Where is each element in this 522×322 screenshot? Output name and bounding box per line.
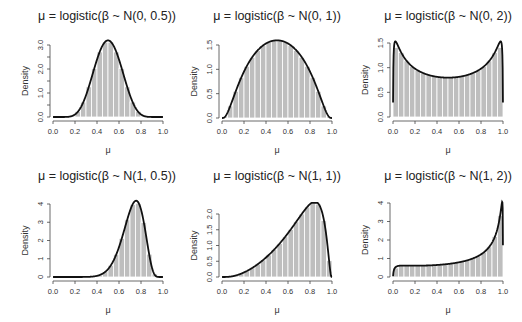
figure-panel-grid: μ = logistic(β ~ N(0, 0.5))0.00.20.40.60… [0,0,522,322]
x-axis-label: μ [274,145,279,155]
x-axis: 0.00.20.40.60.81.0μ [388,281,508,315]
y-axis: 0.00.51.01.52.0Density [189,209,219,282]
histogram-bars [393,216,503,277]
histogram-bar [305,207,311,277]
histogram-bar [255,50,261,118]
histogram-bar [443,264,449,277]
histogram-bar [426,75,432,117]
histogram-bar [399,52,405,117]
x-tick-label: 0.2 [239,287,249,296]
x-tick-label: 0.2 [410,287,420,296]
x-axis-label: μ [445,305,450,315]
histogram-bar [487,61,493,117]
histogram-bar [250,57,256,118]
x-tick-label: 1.0 [327,127,337,136]
histogram-bar [415,70,421,117]
y-axis-label: Density [360,224,370,255]
histogram-bar [410,66,416,117]
histogram-bar [437,77,443,117]
x-tick-label: 0.6 [454,127,464,136]
x-tick-label: 0.4 [92,287,102,296]
histogram-bar [459,262,465,277]
panel-title: μ = logistic(β ~ N(0, 1)) [213,9,341,23]
y-tick-label: 4 [36,202,45,206]
y-tick-label: 2.0 [205,209,214,219]
x-tick-label: 0.8 [476,287,486,296]
histogram-bar [465,260,471,277]
y-tick-label: 0.0 [205,272,214,282]
histogram-bar [415,266,421,277]
y-tick-label: 0 [36,275,45,279]
x-tick-label: 0.8 [476,127,486,136]
panel-3: μ = logistic(β ~ N(0, 2))0.00.20.40.60.8… [360,9,512,155]
histogram-bar [108,42,114,117]
histogram-bar [448,264,454,277]
y-axis: 0.01.02.03.0Density [20,40,50,122]
histogram-bar [476,256,482,277]
y-axis: 0.00.51.01.5Density [189,40,219,123]
histogram-bar [316,204,322,277]
y-tick-label: 0.5 [205,88,214,98]
x-axis: 0.00.20.40.60.81.0μ [217,281,337,315]
histogram-bar [272,249,278,277]
x-axis-label: μ [105,305,110,315]
y-axis-label: Density [20,225,30,256]
histogram-bars [59,42,158,117]
histogram-bar [283,237,289,277]
panel-2: μ = logistic(β ~ N(0, 1))0.00.20.40.60.8… [189,9,341,155]
x-tick-label: 0.4 [432,127,442,136]
histogram-bars [222,41,332,118]
y-tick-label: 1.0 [205,64,214,74]
y-axis-label: Density [360,64,370,95]
x-tick-label: 1.0 [498,287,508,296]
x-tick-label: 0.0 [388,127,398,136]
panel-title: μ = logistic(β ~ N(1, 1)) [213,169,341,183]
y-tick-label: 3 [36,220,45,224]
y-axis: 01234Density [20,202,50,279]
y-axis-label: Density [20,65,30,96]
histogram-bar [136,203,142,277]
x-tick-label: 0.2 [410,127,420,136]
histogram-bar [470,73,476,117]
x-tick-label: 1.0 [498,127,508,136]
x-tick-label: 0.2 [70,287,80,296]
x-axis: 0.00.20.40.60.81.0μ [48,121,168,155]
histogram-bars [222,203,332,277]
y-axis-label: Density [189,230,199,261]
x-axis-label: μ [445,145,450,155]
panel-title: μ = logistic(β ~ N(0, 2)) [384,9,512,23]
histogram-bar [432,265,438,277]
x-axis-label: μ [105,145,110,155]
x-tick-label: 0.6 [283,127,293,136]
y-tick-label: 1.5 [205,40,214,50]
panel-title: μ = logistic(β ~ N(1, 0.5)) [38,169,176,183]
x-tick-label: 0.6 [454,287,464,296]
y-tick-label: 4 [376,201,385,205]
x-tick-label: 0.4 [261,127,271,136]
histogram-bar [481,66,487,117]
panel-title: μ = logistic(β ~ N(1, 2)) [384,169,512,183]
panel-6: μ = logistic(β ~ N(1, 2))0.00.20.40.60.8… [360,169,512,315]
y-tick-label: 1.0 [205,240,214,250]
histogram-bar [103,42,109,117]
histogram-bar [261,45,267,118]
panel-1: μ = logistic(β ~ N(0, 0.5))0.00.20.40.60… [20,9,176,155]
histogram-bar [476,70,482,117]
x-tick-label: 1.0 [158,287,168,296]
histogram-bar [244,66,250,118]
panel-5: μ = logistic(β ~ N(1, 1))0.00.20.40.60.8… [189,169,341,315]
x-tick-label: 0.8 [136,287,146,296]
histogram-bar [470,258,476,277]
histogram-bar [410,266,416,277]
y-tick-label: 2.0 [36,64,45,74]
histogram-bar [283,42,289,118]
histogram-bar [277,243,283,277]
panel-4: μ = logistic(β ~ N(1, 0.5))0.00.20.40.60… [20,169,176,315]
histogram-bar [310,203,316,277]
x-tick-label: 0.2 [70,127,80,136]
histogram-bar [294,50,300,118]
y-tick-label: 0.5 [376,87,385,97]
y-tick-label: 1.0 [376,62,385,72]
histogram-bars [64,203,163,277]
x-axis: 0.00.20.40.60.81.0μ [388,121,508,155]
